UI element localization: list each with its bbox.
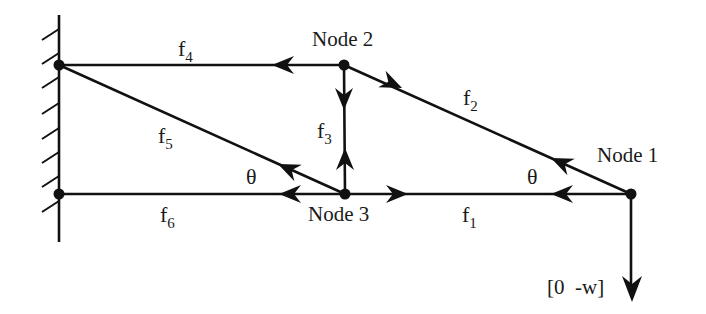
support-node-top xyxy=(54,60,65,71)
node-3 xyxy=(340,189,351,200)
wall-support xyxy=(42,15,59,242)
member-f5-label: f5 xyxy=(158,123,173,152)
member-f2-label: f2 xyxy=(463,85,478,114)
arrow-up-left-icon xyxy=(547,150,574,175)
theta-right-label: θ xyxy=(527,164,538,189)
truss-diagram: Node 2 Node 3 Node 1 f4 f5 f6 f3 f2 f1 θ… xyxy=(0,0,706,314)
node-1-label: Node 1 xyxy=(597,143,658,167)
member-f4-label: f4 xyxy=(178,36,193,65)
force-arrows xyxy=(272,56,642,302)
member-f3-label: f3 xyxy=(317,118,332,147)
wall-hatching xyxy=(42,29,59,212)
arrow-up-left-icon xyxy=(274,156,301,181)
node-1 xyxy=(626,189,637,200)
theta-left-label: θ xyxy=(246,164,257,189)
member-f6-label: f6 xyxy=(160,202,175,231)
node-2 xyxy=(339,60,350,71)
load-label: [0 -w] xyxy=(547,275,604,299)
support-node-bottom xyxy=(54,189,65,200)
member-f3 xyxy=(344,65,345,194)
node-3-label: Node 3 xyxy=(308,202,369,226)
member-f1-label: f1 xyxy=(462,202,477,231)
node-2-label: Node 2 xyxy=(312,27,373,51)
member-f5 xyxy=(59,65,345,194)
